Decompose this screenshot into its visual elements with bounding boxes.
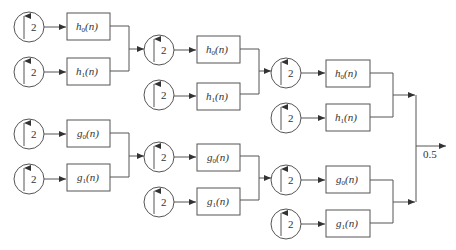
upsampler-s1-h1: 2: [14, 57, 44, 87]
svg-text:h1(n): h1(n): [335, 111, 357, 125]
upsampler-s3-g1: 2: [271, 209, 301, 239]
svg-text:g0(n): g0(n): [207, 151, 229, 165]
upsampler-s3-h0: 2: [271, 58, 301, 88]
upsampler-s1-g0: 2: [14, 119, 44, 149]
svg-text:2: 2: [31, 128, 37, 140]
svg-text:2: 2: [161, 44, 167, 56]
svg-text:2: 2: [161, 196, 167, 208]
svg-text:h0(n): h0(n): [76, 20, 98, 34]
svg-text:h1(n): h1(n): [76, 65, 98, 79]
filter-s2-h0: h0(n): [197, 36, 240, 63]
svg-text:2: 2: [288, 67, 294, 79]
upsampler-s2-g0: 2: [144, 142, 174, 172]
filter-s3-g1: g1(n): [326, 210, 370, 237]
svg-text:2: 2: [31, 21, 37, 33]
filter-s2-h1: h1(n): [197, 83, 240, 110]
svg-text:2: 2: [31, 173, 37, 185]
filter-s2-g1: g1(n): [197, 188, 240, 215]
upsampler-s1-h0: 2: [14, 12, 44, 42]
filter-s1-g1: g1(n): [67, 164, 110, 191]
filter-s3-h0: h0(n): [326, 60, 370, 87]
upsampler-s3-h1: 2: [271, 103, 301, 133]
svg-text:2: 2: [31, 66, 37, 78]
upsampler-s3-g0: 2: [271, 165, 301, 195]
upsampler-s2-g1: 2: [144, 187, 174, 217]
svg-text:2: 2: [161, 89, 167, 101]
svg-text:g1(n): g1(n): [77, 171, 99, 185]
svg-text:g1(n): g1(n): [207, 195, 229, 209]
filter-s3-g0: g0(n): [326, 166, 370, 193]
output-gain-label: 0.5: [423, 148, 437, 160]
filter-s1-g0: g0(n): [67, 120, 110, 147]
svg-text:2: 2: [161, 151, 167, 163]
filter-bank-diagram: 2 h0(n) 2 h1(n) 2 g0(n) 2 g1(n): [0, 0, 456, 250]
upsampler-s2-h0: 2: [144, 35, 174, 65]
upsampler-s2-h1: 2: [144, 80, 174, 110]
svg-text:h1(n): h1(n): [206, 90, 228, 104]
svg-text:h0(n): h0(n): [335, 67, 357, 81]
svg-text:g0(n): g0(n): [336, 173, 358, 187]
filter-s3-h1: h1(n): [326, 104, 370, 131]
upsampler-s1-g1: 2: [14, 164, 44, 194]
svg-text:g1(n): g1(n): [336, 217, 358, 231]
svg-text:h0(n): h0(n): [206, 43, 228, 57]
filter-s1-h1: h1(n): [67, 58, 110, 85]
svg-text:2: 2: [288, 174, 294, 186]
svg-text:2: 2: [288, 112, 294, 124]
svg-text:g0(n): g0(n): [77, 127, 99, 141]
filter-s1-h0: h0(n): [67, 13, 110, 40]
svg-text:2: 2: [288, 218, 294, 230]
filter-s2-g0: g0(n): [197, 144, 240, 171]
